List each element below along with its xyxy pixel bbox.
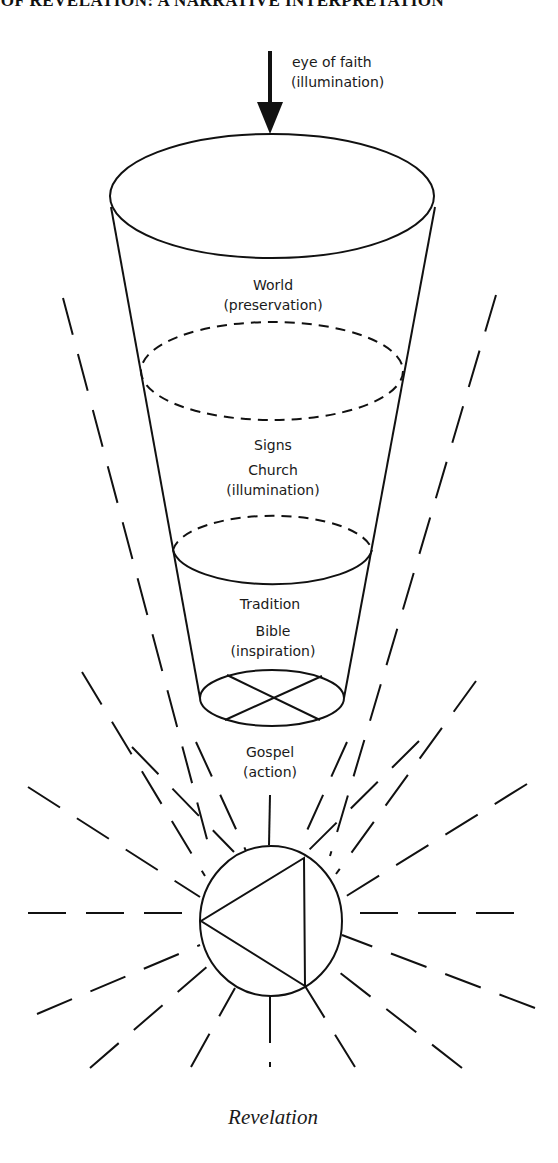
arrow-label-1: eye of faith xyxy=(292,54,372,70)
arrow-label-2: (illumination) xyxy=(291,74,384,90)
cone-left-side xyxy=(111,207,200,698)
gospel-sub-label: (action) xyxy=(243,764,297,780)
bible-label: Bible xyxy=(256,623,291,639)
church-sub-label: (illumination) xyxy=(226,482,319,498)
signs-label: Signs xyxy=(254,437,292,453)
tradition-label: Tradition xyxy=(239,596,300,612)
church-label: Church xyxy=(248,462,298,478)
revelation-cone-diagram: eye of faith (illumination) World (prese… xyxy=(0,0,558,1163)
bible-sub-label: (inspiration) xyxy=(231,643,316,659)
third-ellipse-top-dashed xyxy=(173,516,372,550)
down-arrow-icon xyxy=(257,51,283,134)
top-ellipse xyxy=(110,134,434,258)
third-ellipse-bottom-solid xyxy=(173,550,372,584)
trinity-circle xyxy=(200,846,342,996)
world-sub-label: (preservation) xyxy=(223,297,322,313)
radiating-rays xyxy=(28,295,535,1068)
diagram-caption: Revelation xyxy=(227,1105,318,1129)
middle-dashed-ellipse xyxy=(141,322,403,420)
cone-right-side xyxy=(344,207,435,698)
gospel-label: Gospel xyxy=(246,744,294,760)
world-label: World xyxy=(253,277,293,293)
triangle-icon xyxy=(201,858,305,986)
